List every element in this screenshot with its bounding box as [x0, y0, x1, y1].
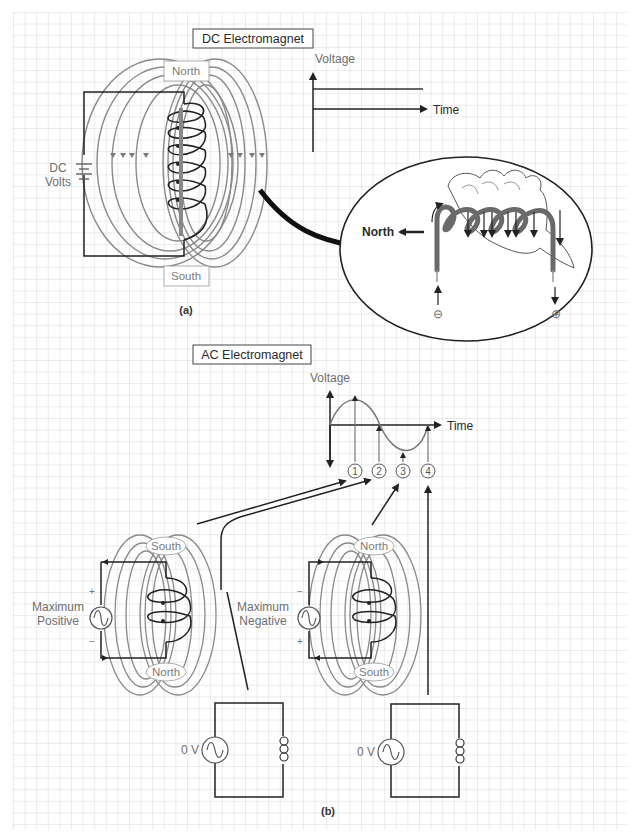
svg-text:2: 2 — [376, 466, 382, 477]
panel-b-caption: (b) — [321, 805, 335, 817]
phase-marker-3: 3 — [396, 464, 410, 478]
phase-marker-4: 4 — [421, 464, 435, 478]
panel-a-caption: (a) — [179, 304, 193, 316]
right-coil-sign-top: − — [297, 586, 303, 597]
panel-b-title: AC Electromagnet — [201, 348, 303, 362]
left-coil-top-pole-label: South — [151, 540, 181, 552]
left-coil-source-label-line2: Positive — [37, 614, 79, 628]
north-pole-label: North — [172, 65, 200, 77]
dc-graph-y-axis-label: Voltage — [315, 52, 355, 66]
right-coil-sign-bottom: + — [297, 636, 303, 647]
ac-source-icon — [90, 607, 112, 629]
right-coil-source-label-line2: Negative — [239, 614, 287, 628]
left-coil-source-label-line1: Maximum — [32, 600, 84, 614]
right-coil-top-pole-label: North — [360, 540, 388, 552]
right-circuit-source-label: 0 V — [357, 745, 375, 759]
diagram-canvas: DC Electromagnet — [0, 0, 637, 840]
north-pole-label-box: North — [164, 61, 209, 81]
positive-terminal-symbol: ⊕ — [551, 307, 561, 321]
phase-marker-1: 1 — [348, 464, 362, 478]
iron-core — [179, 108, 183, 236]
ac-graph-y-axis-label: Voltage — [310, 371, 350, 385]
south-pole-label: South — [171, 270, 201, 282]
ac-graph-x-axis-label: Time — [447, 419, 474, 433]
left-circuit-source-label: 0 V — [181, 743, 199, 757]
phase-marker-2: 2 — [372, 464, 386, 478]
dc-volts-label-line1: DC — [49, 161, 67, 175]
svg-text:4: 4 — [425, 466, 431, 477]
left-coil-sign-top: + — [89, 586, 95, 597]
left-coil-bottom-pole-label: North — [152, 666, 180, 678]
inset-north-direction-label: North — [362, 225, 394, 239]
right-hand-rule-inset: North ⊖ ⊕ — [340, 157, 592, 341]
graph-paper-background — [13, 12, 627, 830]
dc-graph-x-axis-label: Time — [433, 103, 460, 117]
panel-b-title-box: AC Electromagnet — [193, 345, 311, 364]
panel-a-title: DC Electromagnet — [202, 32, 305, 46]
right-coil-bottom-pole-label: South — [359, 666, 389, 678]
panel-a-title-box: DC Electromagnet — [193, 29, 313, 48]
svg-text:3: 3 — [400, 466, 406, 477]
dc-volts-label-line2: Volts — [45, 175, 71, 189]
negative-terminal-symbol: ⊖ — [433, 307, 443, 321]
left-coil-sign-bottom: − — [89, 636, 95, 647]
south-pole-label-box: South — [164, 266, 209, 286]
right-coil-source-label-line1: Maximum — [237, 600, 289, 614]
svg-text:1: 1 — [352, 466, 358, 477]
ac-source-icon — [298, 607, 320, 629]
